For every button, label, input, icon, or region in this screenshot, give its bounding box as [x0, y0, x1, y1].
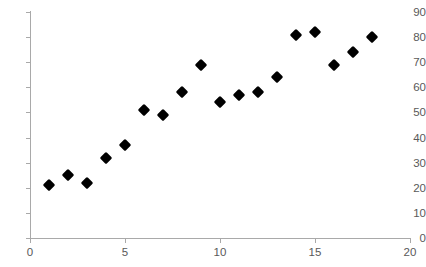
data-point[interactable] — [366, 31, 379, 44]
y-axis-tick-label: 70 — [402, 56, 426, 68]
data-point[interactable] — [328, 58, 341, 71]
y-axis-line — [30, 11, 31, 239]
scatter-chart: 0102030405060708090 05101520 — [0, 0, 426, 267]
y-axis-tick-label: 20 — [402, 182, 426, 194]
x-axis-tick-label: 5 — [110, 246, 140, 258]
data-point[interactable] — [233, 88, 246, 101]
y-axis-tick-label: 90 — [402, 6, 426, 18]
data-point[interactable] — [347, 46, 360, 59]
data-point[interactable] — [176, 86, 189, 99]
y-axis-tick-label: 80 — [402, 31, 426, 43]
plot-area: 0102030405060708090 05101520 — [0, 0, 426, 267]
y-axis-tick-label: 50 — [402, 106, 426, 118]
y-axis-tick-label: 30 — [402, 157, 426, 169]
data-point[interactable] — [195, 58, 208, 71]
x-axis-tick — [315, 239, 316, 243]
x-axis-tick-label: 0 — [15, 246, 45, 258]
y-axis-tick-label: 40 — [402, 132, 426, 144]
y-axis-tick-label: 0 — [402, 232, 426, 244]
data-point[interactable] — [43, 179, 56, 192]
x-axis-tick-label: 15 — [300, 246, 330, 258]
data-point[interactable] — [100, 151, 113, 164]
x-axis-tick — [30, 239, 31, 243]
data-point[interactable] — [62, 169, 75, 182]
y-axis-tick — [26, 87, 30, 88]
y-axis-tick — [26, 138, 30, 139]
x-axis-tick — [410, 239, 411, 243]
data-point[interactable] — [252, 86, 265, 99]
y-axis-tick — [26, 163, 30, 164]
y-axis-tick — [26, 188, 30, 189]
y-axis-tick-label: 10 — [402, 207, 426, 219]
x-axis-tick — [220, 239, 221, 243]
y-axis-tick — [26, 112, 30, 113]
y-axis-tick-label: 60 — [402, 81, 426, 93]
x-axis-tick-label: 20 — [395, 246, 425, 258]
data-point[interactable] — [271, 71, 284, 84]
data-point[interactable] — [119, 139, 132, 152]
y-axis-tick — [26, 62, 30, 63]
x-axis-tick — [125, 239, 126, 243]
y-axis-tick — [26, 12, 30, 13]
data-point[interactable] — [81, 176, 94, 189]
y-axis-tick — [26, 37, 30, 38]
x-axis-tick-label: 10 — [205, 246, 235, 258]
data-point[interactable] — [138, 104, 151, 117]
data-point[interactable] — [214, 96, 227, 109]
y-axis-tick — [26, 213, 30, 214]
data-point[interactable] — [309, 26, 322, 39]
data-point[interactable] — [157, 109, 170, 122]
data-point[interactable] — [290, 28, 303, 41]
